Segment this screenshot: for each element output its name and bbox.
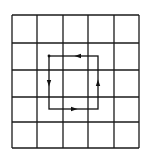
arrow-right-icon: [71, 107, 78, 111]
arrow-left-icon: [75, 54, 82, 58]
arrow-up-icon: [96, 80, 100, 87]
loop-rectangle: [49, 56, 98, 109]
loop-direction-arrows: [47, 54, 100, 111]
grid: [12, 15, 139, 148]
arrow-down-icon: [47, 80, 51, 87]
loop-start-dot: [48, 55, 51, 58]
closed-loop-path: [48, 55, 98, 109]
grid-loop-diagram: [0, 0, 147, 155]
